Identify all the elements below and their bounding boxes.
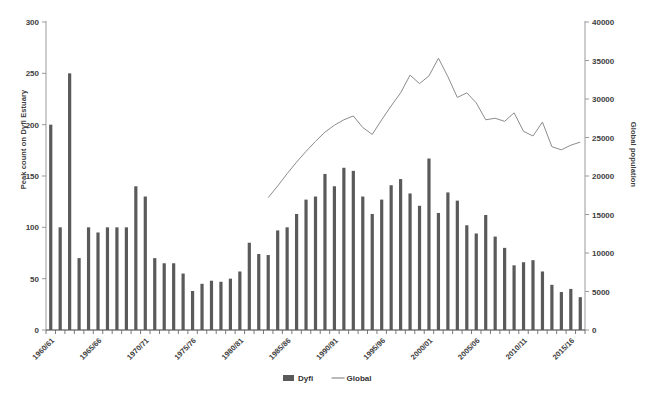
svg-text:25000: 25000 xyxy=(592,134,615,143)
line-series-global xyxy=(268,58,580,197)
svg-text:300: 300 xyxy=(26,18,40,27)
svg-text:0: 0 xyxy=(35,326,40,335)
svg-text:200: 200 xyxy=(26,121,40,130)
chart-plot-area: 050100150200250300 050001000015000200002… xyxy=(0,0,655,402)
svg-text:Global: Global xyxy=(347,374,372,383)
svg-text:30000: 30000 xyxy=(592,95,615,104)
svg-text:0: 0 xyxy=(592,326,597,335)
svg-text:1975/76: 1975/76 xyxy=(172,336,198,362)
svg-text:20000: 20000 xyxy=(592,172,615,181)
y-axis-right: 0500010000150002000025000300003500040000 xyxy=(585,18,615,335)
svg-text:1985/86: 1985/86 xyxy=(267,336,293,362)
svg-text:150: 150 xyxy=(26,172,40,181)
svg-text:Dyfi: Dyfi xyxy=(298,374,313,383)
chart-legend: DyfiGlobal xyxy=(283,374,371,383)
svg-text:1990/91: 1990/91 xyxy=(314,336,340,362)
svg-text:1980/81: 1980/81 xyxy=(220,336,246,362)
svg-text:35000: 35000 xyxy=(592,57,615,66)
svg-text:1960/61: 1960/61 xyxy=(31,336,57,362)
svg-text:100: 100 xyxy=(26,223,40,232)
svg-text:5000: 5000 xyxy=(592,288,610,297)
y-axis-left: 050100150200250300 xyxy=(26,18,46,335)
x-axis: 1960/611965/661970/711975/761980/811985/… xyxy=(31,330,585,362)
svg-text:40000: 40000 xyxy=(592,18,615,27)
svg-text:2000/01: 2000/01 xyxy=(409,336,435,362)
svg-text:10000: 10000 xyxy=(592,249,615,258)
svg-text:2015/16: 2015/16 xyxy=(551,336,577,362)
svg-text:1995/96: 1995/96 xyxy=(362,336,388,362)
svg-text:15000: 15000 xyxy=(592,211,615,220)
svg-text:1965/66: 1965/66 xyxy=(78,336,104,362)
svg-text:50: 50 xyxy=(30,275,39,284)
svg-text:2005/06: 2005/06 xyxy=(456,336,482,362)
chart-container: Peak count on Dyfi Estuary Global popula… xyxy=(0,0,655,402)
svg-text:250: 250 xyxy=(26,69,40,78)
svg-text:1970/71: 1970/71 xyxy=(125,336,151,362)
svg-text:2010/11: 2010/11 xyxy=(504,336,529,361)
bar-series-dyfi xyxy=(49,73,582,330)
